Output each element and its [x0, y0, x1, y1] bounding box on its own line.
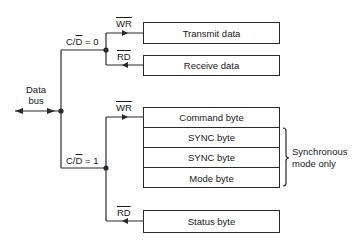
data-bus-label-line1: Data: [26, 84, 46, 95]
data-bus-label-line2: bus: [26, 95, 46, 106]
condition-cd-1: C/D = 1: [66, 155, 99, 166]
status-byte-register: Status byte: [143, 210, 280, 233]
write-register-group: Command byte SYNC byte SYNC byte Mode by…: [143, 107, 280, 188]
sync-byte-register-1: SYNC byte: [144, 128, 279, 148]
rd-signal-upper: RD: [117, 51, 131, 62]
wr-signal-lower: WR: [116, 102, 132, 113]
wr-signal-upper: WR: [116, 18, 132, 29]
annotation-line1: Synchronous: [292, 146, 347, 158]
data-bus-label: Data bus: [26, 84, 46, 106]
rd-signal-lower: RD: [117, 207, 131, 218]
condition-cd-0: C/D = 0: [66, 36, 99, 47]
arrow-left-icon: [15, 108, 23, 114]
command-byte-register: Command byte: [144, 108, 279, 128]
mode-byte-register: Mode byte: [144, 168, 279, 188]
arrow-right-icon: [47, 108, 55, 114]
transmit-data-register: Transmit data: [143, 22, 280, 44]
receive-data-register: Receive data: [143, 55, 280, 76]
annotation-line2: mode only: [292, 158, 347, 170]
synchronous-annotation: Synchronous mode only: [292, 146, 347, 170]
sync-byte-register-2: SYNC byte: [144, 148, 279, 168]
